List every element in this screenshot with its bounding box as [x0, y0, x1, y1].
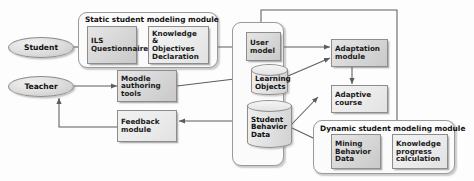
box-moodle-line-2: authoring tools [121, 82, 173, 97]
box-moodle-authoring-tools[interactable]: Moodle authoring tools [117, 70, 177, 102]
datastore-learning-objects-line-2: Objects [255, 83, 288, 91]
box-ils-questionnaire[interactable]: ILS Questionnaire [87, 26, 137, 64]
box-knowledge-line-1: Knowledge & [152, 30, 205, 45]
datastore-student-behavior-data[interactable]: Student Behavior Data [247, 100, 292, 148]
box-knowledge-line-3: Declaration [152, 53, 205, 61]
datastore-learning-objects[interactable]: Learning Objects [251, 64, 288, 95]
box-ils-questionnaire-line-2: Questionnaire [91, 45, 133, 53]
datastore-student-behavior-line-3: Data [251, 131, 292, 139]
box-knowledge-objectives-declaration[interactable]: Knowledge & Objectives Declaration [148, 26, 209, 64]
box-knowledge-progress-calculation[interactable]: Knowledge progress calculation [392, 134, 448, 169]
box-mining-behavior-data[interactable]: Mining Behavior Data [331, 134, 381, 169]
box-adaptive-course-line-2: course [335, 99, 384, 107]
box-kpc-line-3: calculation [396, 155, 444, 163]
box-adaptation-line-2: module [335, 53, 384, 61]
box-mining-line-3: Data [335, 155, 377, 163]
edge-learning-objects-to-adaptation [288, 58, 330, 76]
group-title-static-module: Static student modeling module [85, 15, 219, 24]
box-user-model-line-2: model [250, 47, 277, 55]
system-architecture-diagram: Static student modeling module Dynamic s… [0, 0, 474, 181]
group-title-dynamic-module: Dynamic student modeling module [320, 124, 465, 133]
box-adaptation-module[interactable]: Adaptation module [331, 39, 388, 67]
actor-student[interactable]: Student [8, 37, 74, 58]
box-feedback-line-2: module [121, 126, 173, 134]
actor-teacher[interactable]: Teacher [8, 76, 74, 97]
actor-teacher-label: Teacher [24, 82, 57, 91]
box-adaptive-course[interactable]: Adaptive course [331, 85, 388, 113]
box-feedback-module[interactable]: Feedback module [117, 110, 177, 142]
edge-behavior-to-adaptive-course [291, 97, 318, 125]
box-user-model[interactable]: User model [246, 32, 281, 61]
edge-feedback-to-teacher [59, 98, 117, 127]
actor-student-label: Student [24, 43, 58, 52]
